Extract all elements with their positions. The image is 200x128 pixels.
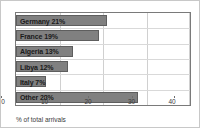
bar-label: France 19% [20, 32, 58, 39]
bar-row: Algeria 13% [16, 44, 190, 59]
bar[interactable]: Libya 12% [16, 61, 68, 72]
bar-label: Italy 7% [20, 78, 45, 85]
bar-label: Algeria 13% [20, 48, 59, 55]
x-tick-label: 10 [41, 98, 48, 105]
x-tick-label: 20 [84, 98, 91, 105]
bar-row: France 19% [16, 28, 190, 43]
bar-row: Germany 21% [16, 13, 190, 28]
bar-label: Libya 12% [20, 63, 53, 70]
plot-area: Germany 21% France 19% Algeria 13% Libya… [15, 12, 191, 106]
bar-row: Libya 12% [16, 59, 190, 74]
x-axis-title: % of total arrivals [16, 116, 66, 123]
x-tick-label: 40 [168, 98, 175, 105]
bar[interactable]: Algeria 13% [16, 46, 73, 57]
x-tick-label: 0 [1, 98, 5, 105]
x-tick-label: 30 [128, 98, 135, 105]
bar-label: Germany 21% [20, 17, 65, 24]
x-axis: 010203040 [1, 96, 177, 108]
chart-figure: Germany 21% France 19% Algeria 13% Libya… [0, 0, 200, 128]
bar[interactable]: Germany 21% [16, 15, 107, 26]
bar[interactable]: France 19% [16, 30, 99, 41]
bar[interactable]: Italy 7% [16, 76, 46, 87]
bar-row: Italy 7% [16, 74, 190, 89]
bar-series: Germany 21% France 19% Algeria 13% Libya… [16, 13, 190, 105]
